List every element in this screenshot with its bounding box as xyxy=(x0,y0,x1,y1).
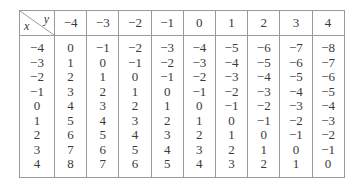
table-cell: −2 xyxy=(280,114,312,129)
table-cell: 0 xyxy=(87,56,119,71)
table-row: 26543210−1−2 xyxy=(20,128,345,143)
table-cell: −1 xyxy=(183,85,215,100)
row-header: −4 xyxy=(20,36,55,56)
row-header: 2 xyxy=(20,128,55,143)
table-body: −40−1−2−3−4−5−6−7−8−310−1−2−3−4−5−6−7−22… xyxy=(20,36,345,178)
table-cell: 6 xyxy=(119,157,151,177)
table-cell: 1 xyxy=(248,143,280,158)
table-cell: −2 xyxy=(183,70,215,85)
table-cell: 3 xyxy=(87,99,119,114)
table-cell: 5 xyxy=(55,114,87,129)
table-cell: 4 xyxy=(119,128,151,143)
table-cell: −1 xyxy=(280,128,312,143)
table-row: 043210−1−2−3−4 xyxy=(20,99,345,114)
column-header: 1 xyxy=(215,11,247,36)
row-header: −2 xyxy=(20,70,55,85)
table-row: −40−1−2−3−4−5−6−7−8 xyxy=(20,36,345,56)
table-cell: 5 xyxy=(87,128,119,143)
table-cell: −4 xyxy=(215,56,247,71)
table-cell: 3 xyxy=(55,85,87,100)
column-header: 2 xyxy=(248,11,280,36)
table-cell: −1 xyxy=(215,99,247,114)
row-header: −3 xyxy=(20,56,55,71)
table-cell: 0 xyxy=(55,36,87,56)
table-cell: 0 xyxy=(151,85,183,100)
table-cell: 1 xyxy=(87,70,119,85)
table-cell: 4 xyxy=(55,99,87,114)
table-cell: 8 xyxy=(55,157,87,177)
column-header: 0 xyxy=(183,11,215,36)
column-header: −3 xyxy=(87,11,119,36)
column-header: −4 xyxy=(55,11,87,36)
table-cell: 2 xyxy=(119,99,151,114)
table-cell: 7 xyxy=(55,143,87,158)
table-row: 376543210−1 xyxy=(20,143,345,158)
table-cell: −1 xyxy=(151,70,183,85)
corner-cell: y x xyxy=(20,11,55,36)
table-cell: 1 xyxy=(280,157,312,177)
table-cell: 3 xyxy=(151,128,183,143)
table-cell: 4 xyxy=(183,157,215,177)
table-cell: 1 xyxy=(215,128,247,143)
table-cell: −6 xyxy=(312,70,344,85)
table-cell: 0 xyxy=(280,143,312,158)
table-cell: −5 xyxy=(312,85,344,100)
table-cell: −1 xyxy=(248,114,280,129)
table-row: 1543210−1−2−3 xyxy=(20,114,345,129)
column-variable-label: y xyxy=(44,12,49,27)
table-cell: 1 xyxy=(55,56,87,71)
table-cell: 1 xyxy=(151,99,183,114)
table-cell: 4 xyxy=(151,143,183,158)
table-cell: −3 xyxy=(280,99,312,114)
table-cell: −2 xyxy=(312,128,344,143)
table-cell: −5 xyxy=(280,70,312,85)
table-cell: −4 xyxy=(280,85,312,100)
row-header: 0 xyxy=(20,99,55,114)
table-cell: −2 xyxy=(248,99,280,114)
table-cell: −3 xyxy=(151,36,183,56)
table-cell: 2 xyxy=(248,157,280,177)
table-cell: 5 xyxy=(119,143,151,158)
column-header: 4 xyxy=(312,11,344,36)
column-header: 3 xyxy=(280,11,312,36)
table-cell: 2 xyxy=(55,70,87,85)
table-cell: 6 xyxy=(55,128,87,143)
table-row: −2210−1−2−3−4−5−6 xyxy=(20,70,345,85)
row-header: 1 xyxy=(20,114,55,129)
row-header: −1 xyxy=(20,85,55,100)
table-cell: 2 xyxy=(215,143,247,158)
table-cell: −5 xyxy=(248,56,280,71)
table-cell: −4 xyxy=(248,70,280,85)
table-cell: −1 xyxy=(312,143,344,158)
table-cell: −7 xyxy=(312,56,344,71)
header-row: y x −4 −3 −2 −1 0 1 2 3 4 xyxy=(20,11,345,36)
row-header: 4 xyxy=(20,157,55,177)
table-cell: 7 xyxy=(87,157,119,177)
table-cell: −8 xyxy=(312,36,344,56)
table-cell: 1 xyxy=(119,85,151,100)
table-cell: −3 xyxy=(312,114,344,129)
column-header: −1 xyxy=(151,11,183,36)
table-cell: −3 xyxy=(215,70,247,85)
table-cell: −4 xyxy=(183,36,215,56)
table-cell: −2 xyxy=(119,36,151,56)
table-cell: 0 xyxy=(248,128,280,143)
table-cell: 2 xyxy=(87,85,119,100)
table-cell: 1 xyxy=(183,114,215,129)
table-cell: 3 xyxy=(183,143,215,158)
table-cell: −3 xyxy=(248,85,280,100)
table-cell: 0 xyxy=(119,70,151,85)
row-variable-label: x xyxy=(24,19,29,34)
table-cell: 5 xyxy=(151,157,183,177)
table-cell: −1 xyxy=(87,36,119,56)
table-cell: 0 xyxy=(215,114,247,129)
table-row: −13210−1−2−3−4−5 xyxy=(20,85,345,100)
table-cell: 4 xyxy=(87,114,119,129)
table-cell: 2 xyxy=(151,114,183,129)
table-cell: −6 xyxy=(248,36,280,56)
column-header: −2 xyxy=(119,11,151,36)
table-row: −310−1−2−3−4−5−6−7 xyxy=(20,56,345,71)
table-cell: 0 xyxy=(183,99,215,114)
table-cell: −6 xyxy=(280,56,312,71)
value-table: y x −4 −3 −2 −1 0 1 2 3 4 −40−1−2−3−4−5−… xyxy=(19,10,345,178)
